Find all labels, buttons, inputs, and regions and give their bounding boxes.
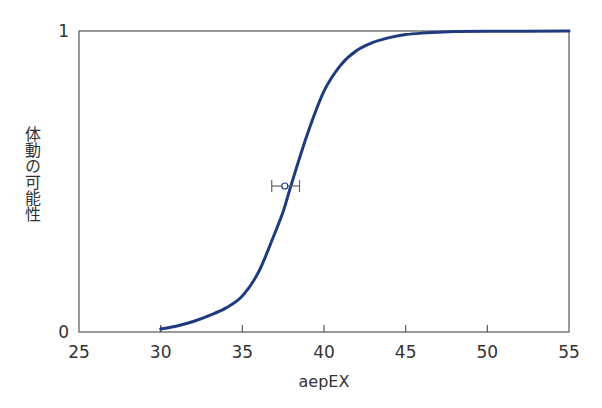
x-tick-label: 35 — [232, 342, 254, 362]
x-tick-label: 50 — [477, 342, 499, 362]
midpoint-marker — [282, 183, 288, 189]
y-tick-label: 0 — [58, 322, 69, 342]
probability-curve — [161, 31, 569, 329]
y-axis-title: 体動の可能性 — [20, 126, 40, 222]
chart: 25303540455055 01 aepEX — [0, 0, 602, 408]
x-axis-tick-labels: 25303540455055 — [68, 342, 580, 362]
y-tick-label: 1 — [58, 21, 69, 41]
x-tick-label: 30 — [150, 342, 172, 362]
x-tick-label: 55 — [558, 342, 580, 362]
y-axis-tick-labels: 01 — [58, 21, 69, 342]
midpoint-errorbar — [272, 180, 300, 192]
x-tick-label: 40 — [313, 342, 335, 362]
x-axis-title: aepEX — [299, 372, 350, 391]
x-tick-label: 25 — [68, 342, 90, 362]
x-tick-label: 45 — [395, 342, 417, 362]
plot-frame — [79, 31, 569, 332]
x-axis-ticks — [161, 325, 488, 332]
